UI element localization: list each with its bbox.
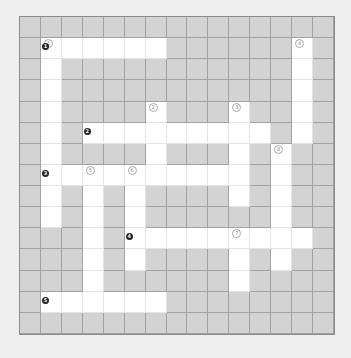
block-cell xyxy=(167,102,188,123)
crossword-cell[interactable] xyxy=(62,165,83,186)
crossword-cell[interactable] xyxy=(41,123,62,144)
block-cell xyxy=(62,271,83,292)
crossword-cell[interactable] xyxy=(146,38,167,59)
block-cell xyxy=(83,313,104,334)
crossword-cell[interactable] xyxy=(146,292,167,313)
block-cell xyxy=(146,249,167,270)
crossword-cell[interactable]: 3 xyxy=(229,102,250,123)
block-cell xyxy=(208,292,229,313)
crossword-cell[interactable] xyxy=(271,165,292,186)
crossword-cell[interactable] xyxy=(104,38,125,59)
crossword-cell[interactable] xyxy=(208,228,229,249)
crossword-cell[interactable] xyxy=(41,186,62,207)
crossword-cell[interactable] xyxy=(41,144,62,165)
across-clue-number: 3 xyxy=(42,170,49,177)
crossword-cell[interactable] xyxy=(250,123,271,144)
block-cell xyxy=(313,292,334,313)
crossword-cell[interactable] xyxy=(125,249,146,270)
crossword-cell[interactable] xyxy=(292,123,313,144)
block-cell xyxy=(62,102,83,123)
crossword-cell[interactable] xyxy=(125,207,146,228)
crossword-cell[interactable] xyxy=(146,144,167,165)
crossword-cell[interactable] xyxy=(125,186,146,207)
crossword-cell[interactable] xyxy=(271,186,292,207)
crossword-cell[interactable] xyxy=(104,165,125,186)
crossword-cell[interactable] xyxy=(146,165,167,186)
block-cell xyxy=(292,292,313,313)
crossword-cell[interactable] xyxy=(41,80,62,101)
block-cell xyxy=(104,186,125,207)
across-clue-number: 4 xyxy=(126,233,133,240)
crossword-cell[interactable] xyxy=(125,38,146,59)
crossword-cell[interactable]: 11 xyxy=(41,38,62,59)
crossword-cell[interactable] xyxy=(229,186,250,207)
block-cell xyxy=(229,292,250,313)
block-cell xyxy=(271,102,292,123)
crossword-cell[interactable]: 6 xyxy=(125,165,146,186)
crossword-cell[interactable] xyxy=(229,271,250,292)
crossword-cell[interactable]: 4 xyxy=(292,38,313,59)
crossword-cell[interactable] xyxy=(83,186,104,207)
crossword-cell[interactable] xyxy=(146,228,167,249)
crossword-cell[interactable] xyxy=(83,292,104,313)
block-cell xyxy=(167,249,188,270)
crossword-cell[interactable] xyxy=(271,249,292,270)
crossword-cell[interactable] xyxy=(41,207,62,228)
crossword-cell[interactable] xyxy=(292,228,313,249)
crossword-cell[interactable] xyxy=(292,102,313,123)
block-cell xyxy=(313,123,334,144)
block-cell xyxy=(20,80,41,101)
crossword-cell[interactable]: 8 xyxy=(271,144,292,165)
crossword-cell[interactable] xyxy=(62,38,83,59)
crossword-cell[interactable] xyxy=(167,123,188,144)
crossword-cell[interactable] xyxy=(208,123,229,144)
block-cell xyxy=(187,102,208,123)
crossword-cell[interactable]: 4 xyxy=(125,228,146,249)
crossword-cell[interactable] xyxy=(83,38,104,59)
block-cell xyxy=(250,17,271,38)
crossword-cell[interactable] xyxy=(187,228,208,249)
block-cell xyxy=(125,271,146,292)
block-cell xyxy=(250,165,271,186)
crossword-cell[interactable] xyxy=(125,292,146,313)
block-cell xyxy=(41,313,62,334)
block-cell xyxy=(229,38,250,59)
crossword-cell[interactable] xyxy=(83,249,104,270)
crossword-cell[interactable] xyxy=(167,228,188,249)
crossword-cell[interactable]: 2 xyxy=(83,123,104,144)
crossword-cell[interactable] xyxy=(41,102,62,123)
crossword-cell[interactable] xyxy=(146,123,167,144)
block-cell xyxy=(83,80,104,101)
crossword-cell[interactable] xyxy=(104,292,125,313)
crossword-cell[interactable] xyxy=(187,165,208,186)
crossword-cell[interactable]: 5 xyxy=(41,292,62,313)
block-cell xyxy=(62,17,83,38)
crossword-cell[interactable] xyxy=(83,207,104,228)
crossword-cell[interactable] xyxy=(208,165,229,186)
crossword-cell[interactable] xyxy=(229,123,250,144)
crossword-cell[interactable] xyxy=(271,207,292,228)
crossword-cell[interactable] xyxy=(229,249,250,270)
crossword-cell[interactable] xyxy=(250,228,271,249)
crossword-cell[interactable] xyxy=(125,123,146,144)
block-cell xyxy=(229,207,250,228)
crossword-cell[interactable] xyxy=(104,123,125,144)
block-cell xyxy=(250,38,271,59)
crossword-cell[interactable] xyxy=(41,59,62,80)
crossword-cell[interactable] xyxy=(229,165,250,186)
crossword-cell[interactable] xyxy=(271,228,292,249)
crossword-cell[interactable]: 7 xyxy=(229,228,250,249)
crossword-cell[interactable]: 3 xyxy=(41,165,62,186)
crossword-cell[interactable] xyxy=(292,80,313,101)
crossword-cell[interactable] xyxy=(83,271,104,292)
crossword-cell[interactable] xyxy=(292,59,313,80)
crossword-cell[interactable] xyxy=(187,123,208,144)
crossword-cell[interactable] xyxy=(62,292,83,313)
block-cell xyxy=(20,165,41,186)
block-cell xyxy=(208,102,229,123)
crossword-cell[interactable]: 5 xyxy=(83,165,104,186)
crossword-cell[interactable] xyxy=(167,165,188,186)
crossword-cell[interactable] xyxy=(83,228,104,249)
crossword-cell[interactable] xyxy=(229,144,250,165)
crossword-cell[interactable]: 2 xyxy=(146,102,167,123)
